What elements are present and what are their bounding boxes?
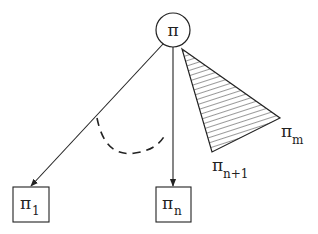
child-node-pin: π n <box>156 187 191 222</box>
hatched-subtree <box>170 40 290 160</box>
child-node-pi1: π 1 <box>13 187 49 222</box>
edge-to-pi1 <box>31 44 163 186</box>
pi1-label: π <box>20 193 31 213</box>
pi1-subscript: 1 <box>32 204 40 218</box>
pin-subscript: n <box>174 204 182 218</box>
pim-label: π <box>281 121 292 141</box>
ellipsis-arc <box>97 118 166 154</box>
root-label: π <box>167 20 178 40</box>
pin1-subscript: n+1 <box>223 167 248 181</box>
root-node: π <box>156 13 190 47</box>
pim-subscript: m <box>292 133 304 147</box>
subtree-label-n1: π n+1 <box>212 155 248 181</box>
pin1-label: π <box>212 155 223 175</box>
pin-label: π <box>162 193 173 213</box>
subtree-label-m: π m <box>281 121 304 147</box>
tree-diagram: π π 1 π n π n+1 π m <box>0 0 318 234</box>
